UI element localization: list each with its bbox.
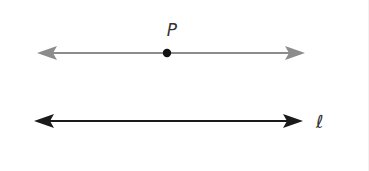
lower-line	[34, 114, 303, 128]
line-l-label: ℓ	[315, 111, 323, 132]
point-p-label: P	[167, 20, 178, 40]
parallel-lines-diagram: P ℓ	[0, 0, 369, 171]
point-p	[163, 49, 171, 57]
